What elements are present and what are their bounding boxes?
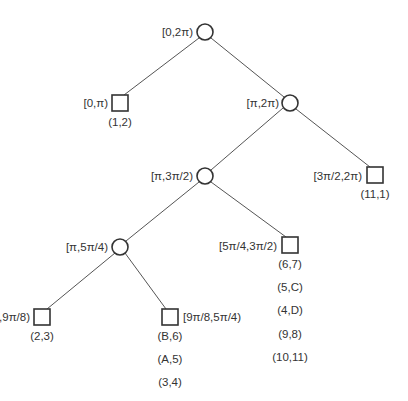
node-interval-label: [5π/4,3π/2) bbox=[219, 240, 277, 252]
edge-n10-n100 bbox=[126, 182, 199, 241]
node-n11: [3π/2,2π) (11,1) bbox=[314, 167, 390, 200]
node-n0: [0,π) (1,2) bbox=[83, 95, 132, 128]
pair-label: (5,C) bbox=[277, 281, 303, 293]
node-interval-label: [9π/8,5π/4) bbox=[183, 311, 241, 323]
pair-label: (2,3) bbox=[30, 330, 54, 342]
node-interval-label: [0,2π) bbox=[162, 26, 193, 38]
edge-n1-n11 bbox=[296, 109, 370, 167]
node-interval-label: [π,2π) bbox=[247, 97, 280, 109]
edge-n100-n1001 bbox=[125, 253, 166, 309]
square-leaf-icon bbox=[282, 237, 298, 253]
node-interval-label: [π,3π/2) bbox=[151, 170, 193, 182]
edge-root-n0 bbox=[124, 38, 199, 95]
node-n1: [π,2π) bbox=[247, 95, 298, 111]
pair-label: (9,8) bbox=[278, 328, 302, 340]
node-interval-label: [3π/2,2π) bbox=[314, 170, 363, 182]
node-interval-label: [0,π) bbox=[83, 97, 108, 109]
pair-label: (B,6) bbox=[158, 330, 183, 342]
edge-n100-n1000 bbox=[47, 253, 115, 309]
square-leaf-icon bbox=[34, 309, 50, 325]
pair-label: (A,5) bbox=[158, 353, 183, 365]
pair-label: (6,7) bbox=[278, 258, 302, 270]
circle-node-icon bbox=[197, 24, 213, 40]
edge-n1-n10 bbox=[211, 108, 283, 170]
node-root: [0,2π) bbox=[162, 24, 213, 40]
node-n10: [π,3π/2) bbox=[151, 168, 213, 184]
pair-label: (3,4) bbox=[158, 376, 182, 388]
circle-node-icon bbox=[282, 95, 298, 111]
square-leaf-icon bbox=[112, 95, 128, 111]
edge-n10-n101 bbox=[211, 182, 286, 237]
pair-label: (4,D) bbox=[277, 304, 303, 316]
node-interval-label: [π,9π/8) bbox=[0, 311, 30, 323]
node-n101: [5π/4,3π/2) (6,7) (5,C) (4,D) (9,8) (10,… bbox=[219, 237, 308, 363]
circle-node-icon bbox=[112, 239, 128, 255]
pair-label: (1,2) bbox=[108, 116, 132, 128]
square-leaf-icon bbox=[367, 167, 383, 183]
node-n1000: [π,9π/8) (2,3) bbox=[0, 309, 54, 342]
node-n1001: [9π/8,5π/4) (B,6) (A,5) (3,4) bbox=[158, 309, 242, 388]
node-interval-label: [π,5π/4) bbox=[66, 241, 108, 253]
square-leaf-icon bbox=[162, 309, 178, 325]
edge-root-n1 bbox=[211, 38, 284, 97]
node-n100: [π,5π/4) bbox=[66, 239, 128, 255]
interval-tree-diagram: [0,2π) [0,π) (1,2) [π,2π) [π,3π/2) [3π/2… bbox=[0, 0, 408, 401]
pair-label: (11,1) bbox=[360, 188, 389, 200]
circle-node-icon bbox=[197, 168, 213, 184]
pair-label: (10,11) bbox=[272, 351, 308, 363]
